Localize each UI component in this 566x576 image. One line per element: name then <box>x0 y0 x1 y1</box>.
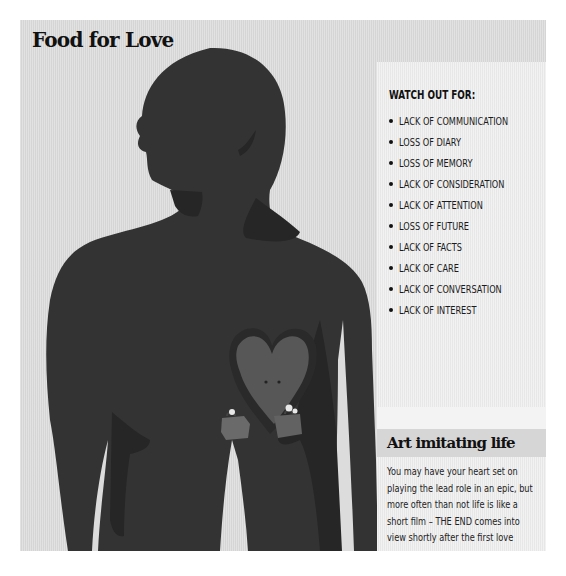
heart-eye-right <box>277 380 280 383</box>
bullet-icon <box>389 245 393 249</box>
bullet-icon <box>389 224 393 228</box>
title-band: Food for Love <box>20 20 546 62</box>
art-section-title: Art imitating life <box>387 434 515 452</box>
list-item: LOSS OF MEMORY <box>389 156 539 177</box>
bullet-icon <box>389 203 393 207</box>
bullet-icon <box>389 287 393 291</box>
bullet-icon <box>389 161 393 165</box>
list-item: LACK OF CONVERSATION <box>389 282 539 303</box>
list-item: LACK OF CONSIDERATION <box>389 177 539 198</box>
infographic-panel: Food for Love WATCH OUT FOR: LACK OF COM… <box>20 20 546 551</box>
watch-out-list: LACK OF COMMUNICATION LOSS OF DIARY LOSS… <box>389 114 539 324</box>
list-item: LACK OF FACTS <box>389 240 539 261</box>
list-item: LACK OF COMMUNICATION <box>389 114 539 135</box>
heart-eye-left <box>264 380 267 383</box>
bullet-icon <box>389 266 393 270</box>
bullet-icon <box>389 182 393 186</box>
page-title: Food for Love <box>32 28 174 52</box>
art-section-header: Art imitating life <box>377 429 546 457</box>
list-item: LACK OF CARE <box>389 261 539 282</box>
list-item: LACK OF ATTENTION <box>389 198 539 219</box>
art-section-body: You may have your heart set on playing t… <box>387 464 535 551</box>
section-divider <box>377 407 546 429</box>
list-item: LACK OF INTEREST <box>389 303 539 324</box>
list-item: LOSS OF FUTURE <box>389 219 539 240</box>
watch-out-panel: WATCH OUT FOR: LACK OF COMMUNICATION LOS… <box>377 62 546 551</box>
bullet-icon <box>389 140 393 144</box>
watch-out-heading: WATCH OUT FOR: <box>389 88 475 102</box>
bullet-icon <box>389 119 393 123</box>
list-item: LOSS OF DIARY <box>389 135 539 156</box>
bullet-icon <box>389 308 393 312</box>
neck-shadow-left <box>170 190 203 217</box>
